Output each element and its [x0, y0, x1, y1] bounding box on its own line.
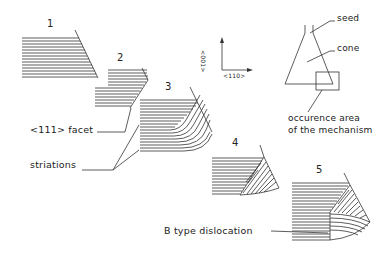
stage-number-5: 5 [316, 165, 322, 175]
stage-3-drawing [140, 87, 212, 151]
stage-5-drawing [292, 173, 370, 240]
facet-label: <111> facet [30, 125, 93, 135]
stage-2-drawing [95, 68, 148, 108]
stage-4-drawing [212, 145, 279, 195]
crystal-cone-drawing [285, 21, 339, 112]
stage-number-1: 1 [47, 19, 53, 29]
axis-label-001: <001> [200, 50, 206, 73]
stage-1-drawing [22, 30, 98, 78]
axes-drawing [222, 40, 250, 70]
axis-label-110: <110> [223, 73, 246, 79]
cone-label: cone [337, 44, 360, 53]
stage-number-2: 2 [117, 53, 123, 63]
stage-number-3: 3 [165, 82, 171, 92]
b-type-dislocation-label: B type dislocation [164, 226, 253, 236]
occurrence-area-label-line1: occurence area [288, 114, 360, 123]
stage-number-4: 4 [232, 138, 238, 148]
seed-label: seed [337, 14, 359, 23]
occurrence-area-label-line2: of the mechanism [288, 126, 373, 135]
striations-label: striations [30, 160, 76, 170]
